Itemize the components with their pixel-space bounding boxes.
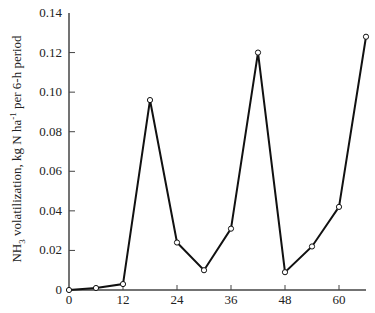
y-label-pre: NH (9, 244, 24, 263)
y-tick-label: 0.02 (39, 242, 62, 257)
y-tick-label: 0 (56, 282, 63, 297)
y-label-sub: 3 (17, 239, 27, 244)
y-label-mid: volatilization, kg N ha (9, 120, 24, 240)
axis-ticks: 00.020.040.060.080.100.120.1401224364860 (39, 5, 345, 307)
y-tick-label: 0.10 (39, 84, 62, 99)
data-point-marker (174, 240, 179, 245)
data-point-marker (93, 285, 98, 290)
data-point-marker (363, 34, 368, 39)
data-point-marker (120, 281, 125, 286)
x-tick-label: 36 (225, 292, 239, 307)
x-tick-label: 12 (117, 292, 130, 307)
data-point-marker (282, 270, 287, 275)
data-series (66, 34, 368, 292)
y-label-sup: -1 (8, 112, 18, 120)
y-tick-label: 0.14 (39, 5, 62, 20)
y-tick-label: 0.04 (39, 203, 62, 218)
data-point-marker (309, 244, 314, 249)
series-line (69, 37, 366, 290)
x-tick-label: 0 (66, 292, 73, 307)
data-point-marker (228, 226, 233, 231)
y-tick-label: 0.12 (39, 45, 62, 60)
y-tick-label: 0.08 (39, 124, 62, 139)
data-point-marker (147, 97, 152, 102)
y-axis-label: NH3 volatilization, kg N ha-1 per 6-h pe… (8, 29, 26, 269)
line-chart: 00.020.040.060.080.100.120.1401224364860 (0, 0, 375, 313)
x-tick-label: 48 (279, 292, 292, 307)
data-point-marker (201, 268, 206, 273)
data-point-marker (66, 287, 71, 292)
x-tick-label: 60 (333, 292, 346, 307)
y-tick-label: 0.06 (39, 163, 62, 178)
x-tick-label: 24 (171, 292, 185, 307)
data-point-marker (255, 50, 260, 55)
data-point-marker (336, 204, 341, 209)
y-label-post: per 6-h period (9, 35, 24, 112)
